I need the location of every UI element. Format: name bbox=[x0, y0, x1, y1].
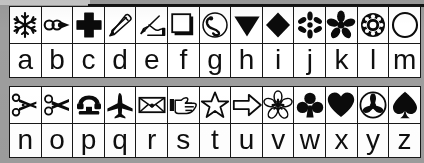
symbol-cell-x bbox=[326, 87, 358, 123]
rosette-icon bbox=[358, 10, 388, 40]
letter-cell-v: v bbox=[263, 124, 295, 157]
symbol-cell-z bbox=[389, 87, 420, 123]
letter-cell-k: k bbox=[326, 44, 358, 77]
symbol-cell-u bbox=[231, 87, 263, 123]
letter-cell-w: w bbox=[294, 124, 326, 157]
outline-flower-icon bbox=[263, 90, 293, 120]
heart-icon bbox=[326, 90, 356, 120]
letter-row-lower: nopqrstuvwxyz bbox=[10, 123, 420, 157]
letter-cell-l: l bbox=[358, 44, 390, 77]
letter-glyph: r bbox=[147, 126, 156, 154]
symbol-cell-w bbox=[294, 87, 326, 123]
letter-cell-p: p bbox=[73, 124, 105, 157]
letter-glyph: k bbox=[334, 46, 348, 74]
letter-cell-h: h bbox=[231, 44, 263, 77]
letter-row-upper: abcdefghijklm bbox=[10, 43, 420, 77]
letter-cell-q: q bbox=[105, 124, 137, 157]
letter-glyph: h bbox=[239, 46, 255, 74]
six-point-asterisk-icon bbox=[295, 10, 325, 40]
letter-cell-a: a bbox=[10, 44, 42, 77]
letter-cell-s: s bbox=[168, 124, 200, 157]
symbol-cell-c bbox=[73, 7, 105, 43]
telephone-circle-icon bbox=[200, 10, 230, 40]
symbol-cell-e bbox=[136, 7, 168, 43]
petal-flower-icon bbox=[326, 10, 356, 40]
symbol-cell-m bbox=[389, 7, 420, 43]
symbol-row-upper bbox=[10, 7, 420, 43]
diamond-icon bbox=[263, 10, 293, 40]
page-top-shading bbox=[0, 0, 90, 5]
letter-cell-j: j bbox=[294, 44, 326, 77]
symbol-cell-v bbox=[263, 87, 295, 123]
writing-hand-icon bbox=[137, 10, 167, 40]
symbol-cell-l bbox=[358, 7, 390, 43]
symbol-table-upper: abcdefghijklm bbox=[9, 6, 421, 78]
letter-glyph: q bbox=[112, 126, 128, 154]
letter-glyph: b bbox=[49, 46, 65, 74]
looped-arrow-icon bbox=[42, 10, 72, 40]
symbol-cell-n bbox=[10, 87, 42, 123]
right-arrow-icon bbox=[232, 90, 262, 120]
letter-glyph: t bbox=[211, 126, 219, 154]
letter-glyph: w bbox=[300, 126, 320, 154]
symbol-row-lower bbox=[10, 87, 420, 123]
circle-outline-icon bbox=[390, 10, 420, 40]
letter-cell-o: o bbox=[42, 124, 74, 157]
outlined-square-icon bbox=[168, 10, 198, 40]
letter-glyph: l bbox=[370, 46, 376, 74]
symbol-cell-g bbox=[200, 7, 232, 43]
symbol-cell-i bbox=[263, 7, 295, 43]
pointing-hand-icon bbox=[168, 90, 198, 120]
character-map-page: abcdefghijklm bbox=[0, 0, 424, 163]
letter-glyph: s bbox=[176, 126, 190, 154]
letter-glyph: z bbox=[398, 126, 412, 154]
symbol-cell-t bbox=[200, 87, 232, 123]
scissors-lower-icon bbox=[42, 90, 72, 120]
letter-glyph: n bbox=[18, 126, 34, 154]
spade-icon bbox=[390, 90, 420, 120]
letter-glyph: i bbox=[275, 46, 281, 74]
star-outline-icon bbox=[200, 90, 230, 120]
letter-glyph: d bbox=[112, 46, 128, 74]
symbol-cell-p bbox=[73, 87, 105, 123]
symbol-cell-y bbox=[358, 87, 390, 123]
symbol-cell-b bbox=[42, 7, 74, 43]
symbol-cell-s bbox=[168, 87, 200, 123]
snowflake-icon bbox=[10, 10, 40, 40]
letter-cell-t: t bbox=[200, 124, 232, 157]
symbol-cell-j bbox=[294, 7, 326, 43]
letter-cell-c: c bbox=[73, 44, 105, 77]
letter-glyph: o bbox=[49, 126, 65, 154]
letter-cell-g: g bbox=[200, 44, 232, 77]
symbol-cell-f bbox=[168, 7, 200, 43]
letter-glyph: m bbox=[393, 46, 416, 74]
telephone-icon bbox=[74, 90, 104, 120]
symbol-cell-h bbox=[231, 7, 263, 43]
propeller-circle-icon bbox=[358, 90, 388, 120]
letter-cell-n: n bbox=[10, 124, 42, 157]
letter-glyph: u bbox=[239, 126, 255, 154]
symbol-cell-d bbox=[105, 7, 137, 43]
letter-glyph: e bbox=[144, 46, 160, 74]
letter-glyph: v bbox=[271, 126, 285, 154]
club-icon bbox=[295, 90, 325, 120]
symbol-cell-r bbox=[136, 87, 168, 123]
letter-cell-x: x bbox=[326, 124, 358, 157]
letter-cell-f: f bbox=[168, 44, 200, 77]
down-triangle-icon bbox=[232, 10, 262, 40]
letter-cell-m: m bbox=[389, 44, 420, 77]
letter-glyph: g bbox=[207, 46, 223, 74]
symbol-cell-o bbox=[42, 87, 74, 123]
symbol-table-lower: nopqrstuvwxyz bbox=[9, 86, 421, 158]
letter-cell-r: r bbox=[136, 124, 168, 157]
letter-glyph: c bbox=[82, 46, 96, 74]
letter-glyph: j bbox=[307, 46, 313, 74]
pencil-icon bbox=[105, 10, 135, 40]
letter-cell-y: y bbox=[358, 124, 390, 157]
bold-cross-icon bbox=[74, 10, 104, 40]
letter-glyph: p bbox=[81, 126, 97, 154]
scissors-upper-icon bbox=[10, 90, 40, 120]
letter-cell-u: u bbox=[231, 124, 263, 157]
symbol-cell-a bbox=[10, 7, 42, 43]
envelope-icon bbox=[137, 90, 167, 120]
